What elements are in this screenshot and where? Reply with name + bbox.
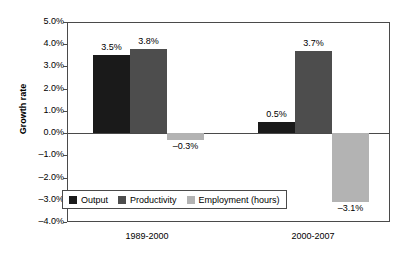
chart-legend: OutputProductivityEmployment (hours) [62, 190, 287, 209]
bar-productivity-2000-2007 [295, 51, 332, 133]
legend-entry[interactable]: Productivity [118, 195, 177, 205]
data-label: 3.8% [117, 36, 180, 46]
x-axis-category-label: 1989-2000 [87, 231, 207, 241]
bar-output-1989-2000 [93, 55, 130, 133]
y-axis-tick-label: –4.0% [18, 216, 64, 226]
data-label: –0.3% [154, 141, 217, 151]
y-axis-tick-label: –1.0% [18, 149, 64, 159]
bar-chart: Growth rate 5.0%4.0%3.0%2.0%1.0%0.0%–1.0… [0, 0, 410, 255]
data-label: 0.5% [245, 109, 308, 119]
legend-label: Employment (hours) [199, 195, 280, 205]
y-axis-tick-mark [63, 222, 67, 223]
legend-entry[interactable]: Employment (hours) [187, 195, 280, 205]
legend-swatch-icon [187, 196, 195, 204]
legend-entry[interactable]: Output [69, 195, 108, 205]
bar-employment-hours-2000-2007 [332, 133, 369, 202]
bar-output-2000-2007 [258, 122, 295, 133]
data-label: 3.7% [282, 38, 345, 48]
data-label: –3.1% [319, 203, 382, 213]
y-axis-tick-label: –2.0% [18, 172, 64, 182]
y-axis-tick-label: 0.0% [18, 127, 64, 137]
legend-swatch-icon [118, 196, 126, 204]
legend-label: Output [81, 195, 108, 205]
legend-swatch-icon [69, 196, 77, 204]
y-axis-tick-label: 3.0% [18, 60, 64, 70]
legend-label: Productivity [130, 195, 177, 205]
y-axis-tick-label: 4.0% [18, 38, 64, 48]
y-axis-tick-label: 2.0% [18, 83, 64, 93]
y-axis-tick-label: 1.0% [18, 105, 64, 115]
bar-employment-hours-1989-2000 [167, 133, 204, 140]
bar-productivity-1989-2000 [130, 49, 167, 133]
x-axis-category-label: 2000-2007 [253, 231, 373, 241]
y-axis-tick-label: 5.0% [18, 16, 64, 26]
y-axis-tick-label: –3.0% [18, 194, 64, 204]
